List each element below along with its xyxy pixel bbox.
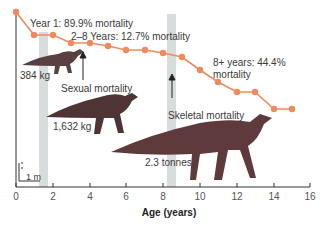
years8plus-mortality-label-2: mortality <box>213 69 251 80</box>
x-ticks <box>16 183 310 187</box>
mass-mid-label: 1,632 kg <box>53 121 91 132</box>
x-tick-label: 14 <box>268 191 279 202</box>
sexual-mortality-label: Sexual mortality <box>61 83 132 94</box>
x-tick-label: 16 <box>304 191 315 202</box>
x-tick-label: 8 <box>160 191 166 202</box>
sexual-mortality-arrow-icon <box>80 52 86 80</box>
x-tick-label: 4 <box>87 191 93 202</box>
mass-large-label: 2.3 tonnes <box>145 157 192 168</box>
x-axis-label: Age (years) <box>0 207 330 218</box>
year1-mortality-label: Year 1: 89.9% mortality <box>30 18 133 29</box>
sexual-mortality-band <box>39 32 48 187</box>
scale-label: 1 m <box>26 172 41 183</box>
x-tick-label: 6 <box>123 191 129 202</box>
years8plus-mortality-label-1: 8+ years: 44.4% <box>213 57 286 68</box>
x-tick-label: 12 <box>231 191 242 202</box>
x-tick-label: 0 <box>13 191 19 202</box>
dinosaur-large-icon <box>111 114 272 180</box>
skeletal-mortality-label: Skeletal mortality <box>168 110 244 121</box>
x-tick-label: 2 <box>50 191 56 202</box>
mass-small-label: 384 kg <box>20 70 50 81</box>
years2to8-mortality-label: 2–8 Years: 12.7% mortality <box>71 31 190 42</box>
x-tick-label: 10 <box>194 191 205 202</box>
